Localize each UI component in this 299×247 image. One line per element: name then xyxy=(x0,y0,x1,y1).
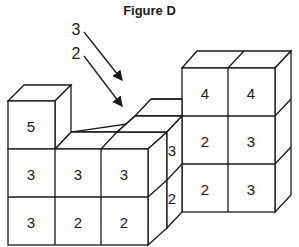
middle-step xyxy=(135,99,182,116)
side-number: 2 xyxy=(168,190,176,207)
cube-number: 2 xyxy=(120,214,128,231)
left-tower xyxy=(8,85,71,149)
cube-number: 4 xyxy=(201,85,209,102)
arrows xyxy=(84,32,122,106)
cube-number: 4 xyxy=(247,85,255,102)
front-grid xyxy=(8,149,148,245)
arrow-label-2: 2 xyxy=(72,45,81,62)
arrow-2 xyxy=(84,56,122,106)
cube-number: 3 xyxy=(247,181,255,198)
side-number: 3 xyxy=(168,142,176,159)
arrow-3 xyxy=(84,32,122,80)
cube-number: 5 xyxy=(27,118,35,135)
cube-number: 2 xyxy=(201,181,209,198)
cube-number: 3 xyxy=(27,214,35,231)
arrow-label-3: 3 xyxy=(72,21,81,38)
cube-number: 2 xyxy=(74,214,82,231)
right-tower xyxy=(182,51,291,212)
cube-number: 3 xyxy=(74,166,82,183)
cube-number: 3 xyxy=(247,133,255,150)
cube-number: 2 xyxy=(201,133,209,150)
cube-diagram: 3 2 5 3 3 3 3 2 2 3 2 4 4 2 3 2 3 xyxy=(0,0,299,247)
cube-number: 3 xyxy=(120,166,128,183)
cube-number: 3 xyxy=(27,166,35,183)
